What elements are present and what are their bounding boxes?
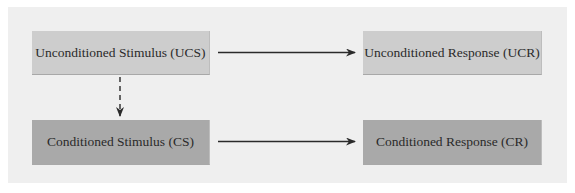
diagram-arrows (0, 0, 575, 193)
